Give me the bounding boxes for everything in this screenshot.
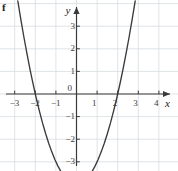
y-axis-label: y [66,5,71,16]
x-tick-label-1: 1 [92,99,97,108]
x-tick-label-neg2: −2 [30,99,40,108]
y-tick-label-3: 3 [64,22,75,31]
y-tick-label-neg3: −3 [64,157,75,166]
x-tick-label-4: 4 [154,99,159,108]
y-tick-label-1: 1 [64,67,75,76]
x-axis-label: x [165,98,170,109]
axes [6,7,170,166]
coordinate-plot [0,0,178,171]
y-tick-label-neg2: −2 [64,135,75,144]
origin-label: 0 [68,84,73,93]
figure-container: f −3−2−11234−4−3−2−11230xy [0,0,178,171]
x-tick-label-2: 2 [113,99,118,108]
grid-lines [0,0,178,171]
x-tick-label-3: 3 [133,99,138,108]
y-tick-label-neg1: −1 [64,112,75,121]
x-tick-label-neg3: −3 [10,99,20,108]
y-tick-label-2: 2 [64,44,75,53]
x-tick-label-neg1: −1 [51,99,61,108]
